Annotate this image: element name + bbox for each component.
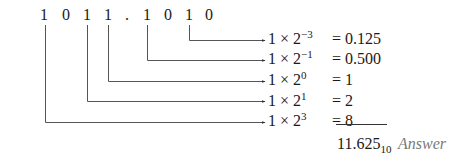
connector-2-1 [88,25,266,102]
term-row: 1 × 2−1= 0.500 [268,50,381,68]
term-value: 0.125 [345,30,381,47]
term-row: 1 × 2−3= 0.125 [268,30,381,48]
term-value: 1 [345,71,353,88]
term-row: 1 × 23= 8 [268,112,353,130]
term-row: 1 × 20= 1 [268,71,353,89]
connector-2-3 [46,25,266,123]
term-value: 0.500 [345,50,381,67]
term-row: 1 × 21= 2 [268,92,353,110]
connector-2-0 [109,25,266,82]
answer-label: Answer [398,135,446,153]
base-subscript: 10 [380,143,391,155]
result-value: 11.62510 [337,135,391,153]
connector-2-neg3 [190,25,266,41]
connector-2-neg1 [148,25,266,61]
term-value: 2 [345,92,353,109]
sum-rule [336,124,387,125]
term-value: 8 [345,112,353,129]
